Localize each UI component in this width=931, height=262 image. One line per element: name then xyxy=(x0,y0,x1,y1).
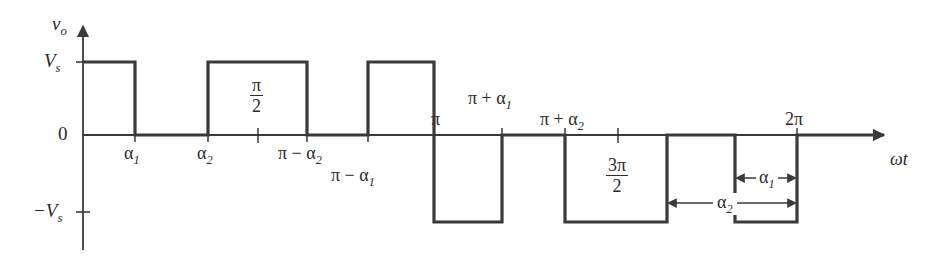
level-label-vs: Vs xyxy=(44,51,61,75)
x-axis-label: ωt xyxy=(890,150,908,168)
waveform-figure: vo Vs 0 −Vs ωt α1 α2 π 2 π − α2 π − α1 π… xyxy=(0,0,931,262)
dimension-label-alpha1: α1 xyxy=(756,168,778,190)
dimension-label-alpha2: α2 xyxy=(713,193,737,215)
tick-label-pi-plus-alpha2: π + α2 xyxy=(540,110,584,132)
tick-label-alpha1: α1 xyxy=(124,144,140,166)
tick-label-pi-plus-alpha1: π + α1 xyxy=(468,89,512,111)
tick-label-pi-minus-alpha1: π − α1 xyxy=(331,166,375,188)
level-label-minus-vs: −Vs xyxy=(33,201,62,225)
tick-label-two-pi: 2π xyxy=(785,110,803,128)
y-axis-label: vo xyxy=(52,14,67,38)
tick-label-pi: π xyxy=(431,110,440,128)
level-label-zero: 0 xyxy=(58,124,68,143)
tick-label-three-half-pi: 3π 2 xyxy=(606,156,628,196)
tick-label-half-pi: π 2 xyxy=(250,76,263,116)
output-voltage-waveform xyxy=(83,62,884,222)
waveform-plot-svg xyxy=(0,0,931,262)
tick-label-pi-minus-alpha2: π − α2 xyxy=(278,144,322,166)
tick-label-alpha2: α2 xyxy=(197,144,213,166)
